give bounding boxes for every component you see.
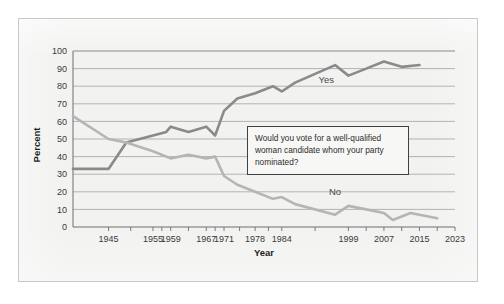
x-axis-title: Year — [254, 247, 274, 258]
question-annotation-box: Would you vote for a well-qualified woma… — [247, 126, 409, 175]
y-tick-label: 60 — [57, 117, 67, 127]
x-tick-label: 2023 — [445, 234, 465, 244]
x-tick-label: 2007 — [374, 234, 394, 244]
series-label-no: No — [329, 186, 341, 197]
y-axis-tick-labels: 0102030405060708090100 — [52, 46, 67, 232]
x-tick-label: 1984 — [272, 234, 292, 244]
chart-figure: 0102030405060708090100 19451955195919671… — [0, 0, 504, 304]
y-tick-label: 30 — [57, 169, 67, 179]
question-annotation-text: Would you vote for a well-qualified woma… — [255, 132, 401, 168]
y-tick-label: 100 — [52, 46, 67, 56]
y-tick-label: 50 — [57, 134, 67, 144]
series-label-yes: Yes — [318, 74, 334, 85]
x-axis-tick-labels: 1945195519591967197119781984199920072015… — [99, 234, 465, 244]
y-tick-label: 90 — [57, 64, 67, 74]
y-tick-label: 10 — [57, 205, 67, 215]
y-tick-label: 70 — [57, 99, 67, 109]
x-tick-label: 1999 — [338, 234, 358, 244]
tick-marks-group — [109, 227, 455, 231]
x-tick-label: 1945 — [99, 234, 119, 244]
x-tick-label: 1959 — [161, 234, 181, 244]
y-tick-label: 80 — [57, 81, 67, 91]
x-tick-label: 1971 — [214, 234, 234, 244]
y-tick-label: 0 — [62, 222, 67, 232]
x-tick-label: 2015 — [409, 234, 429, 244]
y-axis-title: Percent — [31, 127, 42, 163]
x-tick-label: 1978 — [245, 234, 265, 244]
y-tick-label: 40 — [57, 152, 67, 162]
y-tick-label: 20 — [57, 187, 67, 197]
